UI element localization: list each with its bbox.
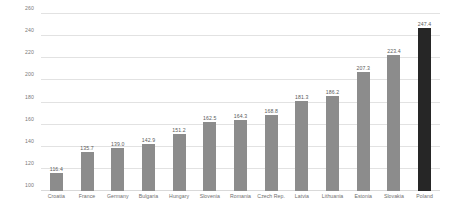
x-axis-category-label: France — [72, 193, 103, 213]
bar[interactable] — [203, 122, 216, 191]
bar-value-label: 186.2 — [326, 89, 339, 95]
bar-value-label: 223.4 — [387, 48, 400, 54]
x-axis-category-label: Croatia — [41, 193, 72, 213]
bar-slot: 116.4 — [41, 14, 72, 191]
y-axis-tick-label: 120 — [25, 160, 34, 166]
bar-slot: 186.2 — [317, 14, 348, 191]
bar-value-label: 116.4 — [50, 166, 63, 172]
x-axis-category-label: Lithuania — [317, 193, 348, 213]
bar-chart: 100120140160180200220240260 116.4135.713… — [0, 0, 450, 221]
plot-area: 116.4135.7139.0142.9151.2162.5164.3168.8… — [41, 14, 440, 191]
x-axis-category-label: Bulgaria — [133, 193, 164, 213]
x-axis-category-label: Latvia — [287, 193, 318, 213]
bar-value-label: 181.3 — [295, 94, 308, 100]
bar[interactable] — [295, 101, 308, 191]
bar-slot: 181.3 — [287, 14, 318, 191]
x-axis-category-label: Slovakia — [379, 193, 410, 213]
bar[interactable] — [234, 120, 247, 191]
y-axis-tick-label: 240 — [25, 27, 34, 33]
x-axis-category-label: Romania — [225, 193, 256, 213]
bar[interactable] — [387, 55, 400, 192]
bar-slot: 142.9 — [133, 14, 164, 191]
bar-value-label: 164.3 — [234, 113, 247, 119]
bar[interactable] — [357, 72, 370, 191]
bar-slot: 168.8 — [256, 14, 287, 191]
y-axis-tick-label: 140 — [25, 138, 34, 144]
bar[interactable] — [142, 144, 155, 191]
x-axis-category-label: Estonia — [348, 193, 379, 213]
bar[interactable] — [111, 148, 124, 191]
bar-value-label: 142.9 — [142, 137, 155, 143]
y-axis-tick-label: 180 — [25, 94, 34, 100]
bar-value-label: 207.3 — [356, 65, 369, 71]
bar-slot: 247.4 — [409, 14, 440, 191]
x-axis-category-label: Germany — [102, 193, 133, 213]
bar-slot: 164.3 — [225, 14, 256, 191]
bar[interactable] — [173, 134, 186, 191]
bar-value-label: 247.4 — [418, 21, 431, 27]
y-axis-tick-label: 220 — [25, 49, 34, 55]
x-axis-category-label: Slovenia — [194, 193, 225, 213]
bar-slot: 207.3 — [348, 14, 379, 191]
bar-slot: 151.2 — [164, 14, 195, 191]
bar-slot: 162.5 — [194, 14, 225, 191]
bar-slot: 139.0 — [102, 14, 133, 191]
bar-value-label: 168.8 — [264, 108, 277, 114]
bar-value-label: 139.0 — [111, 141, 124, 147]
bar[interactable] — [418, 28, 431, 191]
bar-slot: 135.7 — [72, 14, 103, 191]
bar-slot: 223.4 — [379, 14, 410, 191]
bar-value-label: 162.5 — [203, 115, 216, 121]
x-axis: CroatiaFranceGermanyBulgariaHungarySlove… — [41, 193, 440, 213]
y-axis: 100120140160180200220240260 — [0, 14, 38, 191]
bar[interactable] — [326, 96, 339, 191]
bar[interactable] — [265, 115, 278, 191]
y-axis-tick-label: 200 — [25, 71, 34, 77]
bar-value-label: 135.7 — [80, 145, 93, 151]
bar-series: 116.4135.7139.0142.9151.2162.5164.3168.8… — [41, 14, 440, 191]
bar-value-label: 151.2 — [172, 127, 185, 133]
y-axis-tick-label: 100 — [25, 182, 34, 188]
y-axis-tick-label: 260 — [25, 5, 34, 11]
x-axis-category-label: Czech Rep. — [256, 193, 287, 213]
bar[interactable] — [50, 173, 63, 191]
x-axis-category-label: Poland — [409, 193, 440, 213]
bar[interactable] — [81, 152, 94, 191]
x-axis-category-label: Hungary — [164, 193, 195, 213]
y-axis-tick-label: 160 — [25, 116, 34, 122]
